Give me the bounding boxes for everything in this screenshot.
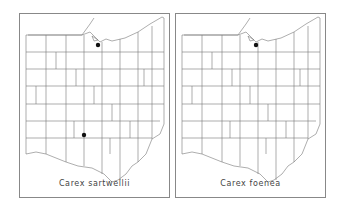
map-panel-carex-sartwellii: Carex sartwellii (19, 13, 170, 198)
ohio-county-map (176, 14, 327, 199)
occurrence-dot-south (82, 133, 86, 137)
map-caption: Carex foenea (176, 179, 325, 188)
occurrence-dots (254, 43, 258, 47)
ohio-county-map (20, 14, 171, 199)
map-caption: Carex sartwellii (20, 179, 169, 188)
map-panel-carex-foenea: Carex foenea (175, 13, 326, 198)
occurrence-dot-north (254, 43, 258, 47)
occurrence-dots (82, 43, 100, 137)
occurrence-dot-north (96, 43, 100, 47)
